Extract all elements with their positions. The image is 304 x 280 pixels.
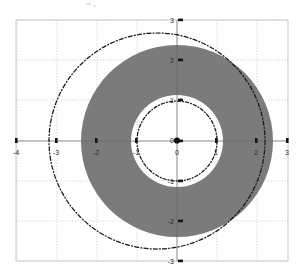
y-tick-label-3: 3 bbox=[170, 17, 174, 24]
scan-speck bbox=[93, 5, 96, 7]
x-tick-label-1: 1 bbox=[214, 149, 218, 156]
x-tick-label-2: 2 bbox=[254, 149, 258, 156]
x-tick-label--3: -3 bbox=[53, 149, 59, 156]
x-tick-label--2: -2 bbox=[93, 149, 99, 156]
y-tick-label--2: -2 bbox=[168, 218, 174, 225]
x-tick-label-3: 3 bbox=[285, 149, 289, 156]
plot-canvas: -4 -3 -2 -1 0 1 2 3 3 2 1 0 -1 -2 -3 bbox=[0, 0, 304, 280]
y-tick-label-1: 1 bbox=[170, 97, 174, 104]
y-tick-label--1: -1 bbox=[168, 178, 174, 185]
figure-root: -4 -3 -2 -1 0 1 2 3 3 2 1 0 -1 -2 -3 bbox=[0, 0, 304, 280]
x-tick-label--4: -4 bbox=[13, 149, 19, 156]
x-tick-label-0: 0 bbox=[175, 149, 179, 156]
scan-speck bbox=[86, 3, 91, 5]
origin-point-marker bbox=[174, 137, 180, 143]
y-tick-label-0: 0 bbox=[170, 137, 174, 144]
y-tick-label--3: -3 bbox=[168, 258, 174, 265]
y-tick-label-2: 2 bbox=[170, 57, 174, 64]
x-tick-label--1: -1 bbox=[133, 149, 139, 156]
